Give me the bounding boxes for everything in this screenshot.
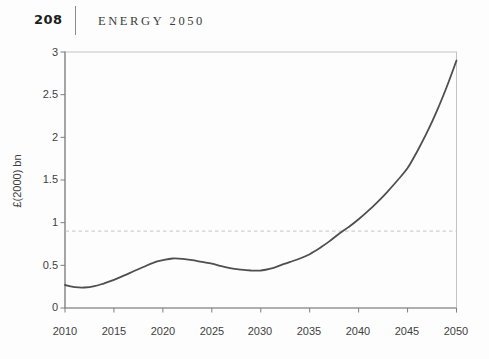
x-tick-label-2030: 2030 (241, 325, 279, 338)
x-tick-label-2015: 2015 (95, 325, 133, 338)
x-tick-label-2010: 2010 (46, 325, 84, 338)
x-tick-label-2020: 2020 (144, 325, 182, 338)
y-axis-label: £(2000) bn (11, 154, 23, 207)
line-chart (0, 0, 489, 359)
y-tick-label-1-5: 1.5 (34, 173, 58, 186)
x-tick-label-2035: 2035 (290, 325, 328, 338)
x-tick-label-2045: 2045 (388, 325, 426, 338)
x-tick-label-2040: 2040 (339, 325, 377, 338)
y-tick-label-0: 0 (34, 301, 58, 314)
y-tick-label-1: 1 (34, 216, 58, 229)
y-tick-label-2: 2 (34, 131, 58, 144)
y-tick-label-2-5: 2.5 (34, 88, 58, 101)
x-tick-label-2050: 2050 (437, 325, 475, 338)
y-tick-label-0-5: 0.5 (34, 259, 58, 272)
x-tick-label-2025: 2025 (193, 325, 231, 338)
y-tick-label-3: 3 (34, 46, 58, 59)
